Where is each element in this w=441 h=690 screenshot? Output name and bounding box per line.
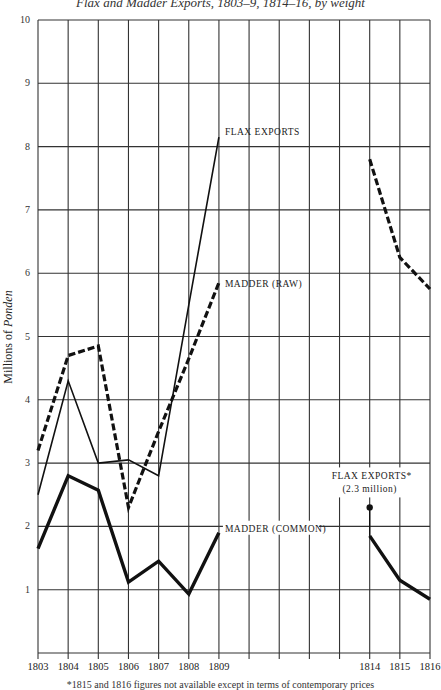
y-tick-label: 6 [25,267,30,278]
x-tick-label: 1806 [118,661,139,672]
y-tick-label: 9 [25,77,30,88]
y-tick-label: 1 [25,584,30,595]
x-axis-ticks: 1803180418051806180718081809181418151816 [28,661,441,672]
x-tick-label: 1805 [88,661,109,672]
footnote: *1815 and 1816 figures not available exc… [0,679,441,690]
y-tick-label: 2 [25,520,30,531]
y-axis-ticks: 12345678910 [20,14,30,595]
x-tick-label: 1803 [28,661,49,672]
x-tick-label: 1804 [58,661,80,672]
x-tick-label: 1815 [389,661,410,672]
flax-1814-label: FLAX EXPORTS* [332,471,412,481]
y-tick-label: 5 [25,331,30,342]
chart-grid [38,20,430,659]
flax-1814-sublabel: (2.3 million) [342,484,397,495]
y-tick-label: 8 [25,141,30,152]
y-tick-label: 10 [20,14,30,25]
flax-exports-label: FLAX EXPORTS [225,127,300,137]
madder-common-label: MADDER (COMMON) [225,524,326,535]
x-tick-label: 1816 [420,661,441,672]
madder-raw-label: MADDER (RAW) [225,279,302,290]
y-tick-label: 3 [25,457,30,468]
y-tick-label: 7 [25,204,30,215]
x-tick-label: 1814 [359,661,381,672]
y-tick-label: 4 [25,394,30,405]
x-tick-label: 1809 [208,661,229,672]
x-tick-label: 1807 [148,661,169,672]
series-labels: FLAX EXPORTSMADDER (RAW)MADDER (COMMON)F… [223,127,416,536]
x-tick-label: 1808 [178,661,199,672]
y-axis-label: Millions of Ponden [1,290,15,383]
